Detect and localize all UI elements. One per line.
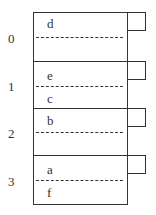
overflow-pointer-2 bbox=[127, 108, 146, 127]
slot-upper-1: e bbox=[47, 69, 53, 82]
slot-upper-0: d bbox=[47, 17, 54, 30]
overflow-pointer-0 bbox=[127, 12, 146, 31]
slot-upper-3: a bbox=[47, 163, 53, 176]
slot-divider bbox=[36, 180, 123, 181]
bucket-2: b bbox=[33, 108, 128, 156]
overflow-pointer-1 bbox=[127, 61, 146, 80]
slot-lower-1: c bbox=[47, 92, 53, 105]
slot-lower-3: f bbox=[47, 186, 51, 199]
slot-divider bbox=[36, 86, 123, 87]
bucket-3: a f bbox=[33, 155, 128, 205]
bucket-index-1: 1 bbox=[8, 80, 15, 93]
slot-upper-2: b bbox=[47, 114, 54, 127]
slot-divider bbox=[36, 132, 123, 133]
slot-divider bbox=[36, 37, 123, 38]
bucket-0: d bbox=[33, 12, 128, 62]
bucket-index-3: 3 bbox=[8, 175, 15, 188]
bucket-index-0: 0 bbox=[8, 32, 15, 45]
bucket-1: e c bbox=[33, 61, 128, 109]
bucket-index-2: 2 bbox=[8, 127, 15, 140]
overflow-pointer-3 bbox=[127, 155, 146, 174]
